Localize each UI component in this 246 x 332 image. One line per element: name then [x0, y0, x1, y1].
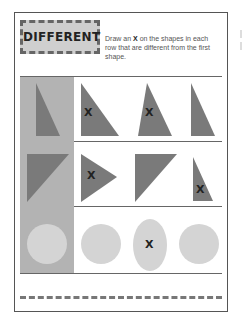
row3-reference-circle[interactable]	[26, 223, 68, 265]
row2-reference-triangle[interactable]	[26, 153, 70, 203]
bleed-mark	[240, 30, 242, 38]
title-banner: DIFFERENT	[20, 20, 100, 54]
row-divider	[20, 273, 222, 274]
x-mark: X	[145, 106, 153, 119]
x-mark: X	[87, 169, 95, 182]
row2-shape2-triangle[interactable]	[80, 153, 118, 203]
row2-shape3-triangle[interactable]	[134, 153, 178, 203]
row3-shape4-circle[interactable]	[178, 223, 220, 265]
row1-shape4-triangle[interactable]	[190, 82, 216, 137]
row1-reference-triangle[interactable]	[35, 82, 61, 137]
decorative-border	[20, 296, 222, 300]
bleed-mark	[240, 42, 242, 50]
x-mark: X	[145, 238, 153, 251]
row1-shape3-triangle[interactable]	[137, 82, 173, 137]
row3-shape2-circle[interactable]	[80, 223, 122, 265]
instructions-text: Draw an X on the shapes in each row that…	[105, 34, 220, 61]
x-mark: X	[196, 183, 204, 196]
x-mark: X	[84, 106, 92, 119]
worksheet-title: DIFFERENT	[23, 30, 97, 44]
